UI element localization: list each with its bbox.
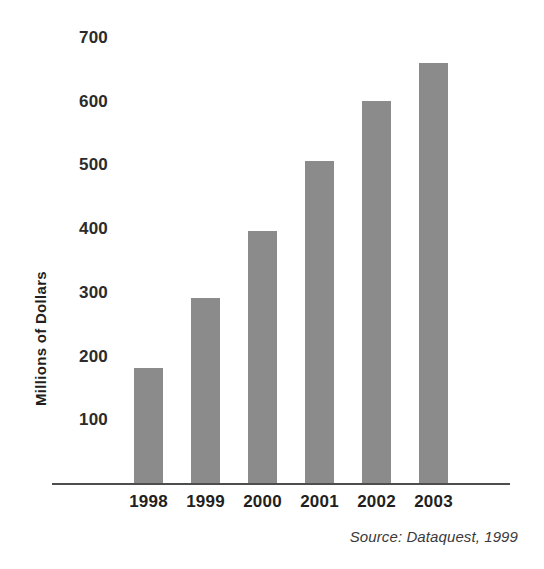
bar-2003[interactable]: [419, 63, 448, 483]
x-axis-tick-label-2003: 2003: [405, 492, 462, 512]
bar-2001[interactable]: [305, 161, 334, 483]
x-axis-tick-label-2001: 2001: [291, 492, 348, 512]
y-axis-tick-label: 200: [60, 348, 108, 365]
x-axis-line: [52, 483, 510, 485]
bar-1998[interactable]: [134, 368, 163, 483]
plot-area: [120, 30, 500, 483]
bar-slot: [177, 30, 234, 483]
x-axis-tick-label-1999: 1999: [177, 492, 234, 512]
bar-slot: [291, 30, 348, 483]
bar-slot: [234, 30, 291, 483]
bar-2000[interactable]: [248, 231, 277, 483]
y-axis-tick-label: 700: [60, 29, 108, 46]
source-note: Source: Dataquest, 1999: [350, 528, 518, 545]
bar-chart-figure: Millions of Dollars 70060050040030020010…: [0, 0, 544, 569]
y-axis-title: Millions of Dollars: [32, 239, 49, 439]
y-axis-tick-label: 100: [60, 411, 108, 428]
bar-1999[interactable]: [191, 298, 220, 483]
y-axis-tick-label: 300: [60, 284, 108, 301]
x-axis-tick-label-1998: 1998: [120, 492, 177, 512]
y-axis-tick-label: 400: [60, 220, 108, 237]
bar-slot: [348, 30, 405, 483]
y-axis-tick-label: 500: [60, 156, 108, 173]
x-axis-tick-label-2000: 2000: [234, 492, 291, 512]
y-axis-tick-label: 600: [60, 93, 108, 110]
x-axis-tick-label-2002: 2002: [348, 492, 405, 512]
x-axis-tick-labels: 199819992000200120022003: [120, 492, 500, 518]
bar-slot: [120, 30, 177, 483]
bar-2002[interactable]: [362, 101, 391, 483]
bar-slot: [405, 30, 462, 483]
